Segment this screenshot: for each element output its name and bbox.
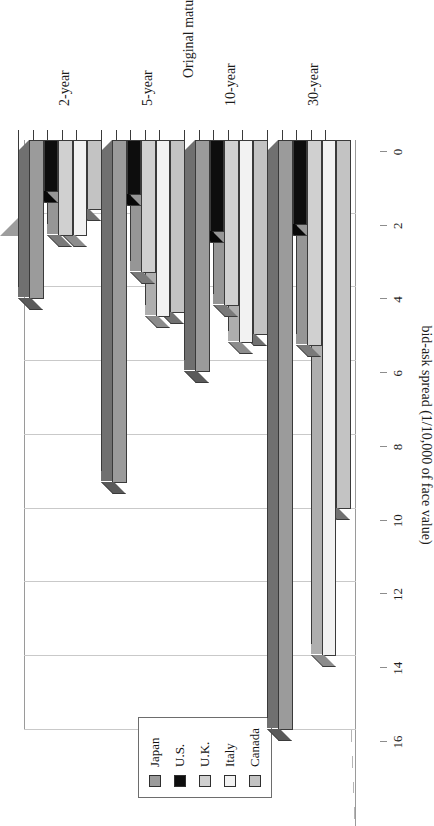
bar-US-30-year [293, 140, 308, 225]
axis-tick [380, 446, 387, 447]
legend-swatch-icon [224, 775, 236, 787]
category-label-30-year: 30-year [306, 63, 322, 106]
value-axis-tick-label: 4 [390, 296, 406, 303]
bar-group-2-year [73, 140, 88, 730]
axis-tick [380, 520, 387, 521]
axis-tick [380, 667, 387, 668]
bar-top-face [184, 140, 195, 370]
legend-item-US[interactable]: U.S. [172, 728, 188, 787]
bar-group-2-year [44, 140, 59, 730]
bar-top-face [18, 140, 29, 297]
bar-group-2-year [58, 140, 73, 730]
value-axis-tick-label: 8 [390, 444, 406, 451]
bar-Japan-2-year [29, 140, 44, 299]
legend-item-Japan[interactable]: Japan [147, 728, 163, 787]
bar-group-5-year [156, 140, 171, 730]
axis-tick [380, 225, 387, 226]
bar-Japan-5-year [112, 140, 127, 483]
bar-Italy-5-year [156, 140, 171, 317]
bar-Japan-30-year [278, 140, 293, 730]
bar-top-face [101, 140, 112, 481]
bar-group-10-year [195, 140, 210, 730]
legend-item-Italy[interactable]: Italy [222, 728, 238, 787]
bar-group-30-year [336, 140, 351, 730]
bar-US-10-year [210, 140, 225, 232]
bar-group-2-year [87, 140, 102, 730]
legend-item-UK[interactable]: U.K. [197, 728, 213, 787]
category-label-10-year: 10-year [223, 63, 239, 106]
bar-group-5-year [112, 140, 127, 730]
bar-Italy-10-year [239, 140, 254, 343]
bar-group-10-year [224, 140, 239, 730]
bar-group-30-year [307, 140, 322, 730]
category-label-2-year: 2-year [57, 70, 73, 106]
legend-label: U.S. [172, 744, 188, 767]
axis-tick [380, 299, 387, 300]
legend-swatch-icon [174, 775, 186, 787]
legend-item-Canada[interactable]: Canada [247, 728, 263, 787]
legend-label: Italy [222, 743, 238, 767]
bar-top-edge [267, 130, 268, 718]
value-axis-title: bid-ask spread (1/10,000 of face value) [418, 325, 434, 544]
bar-group-30-year [293, 140, 308, 730]
legend-swatch-icon [249, 775, 261, 787]
bar-top-face [267, 140, 278, 728]
axis-tick [380, 741, 387, 742]
value-axis-tick-label: 2 [390, 223, 406, 230]
bar-group-30-year [322, 140, 337, 730]
bar-Japan-10-year [195, 140, 210, 372]
value-axis-tick-label: 16 [390, 736, 406, 749]
plot-area [24, 140, 356, 730]
bar-top-edge [184, 130, 185, 360]
value-axis-tick-label: 14 [390, 662, 406, 675]
bar-top-edge [18, 130, 19, 287]
bar-group-10-year [210, 140, 225, 730]
bar-group-30-year [278, 140, 293, 730]
bar-Canada-30-year [336, 140, 351, 509]
bar-top-edge [101, 130, 102, 471]
legend-label: Japan [147, 737, 163, 767]
value-axis-tick-label: 10 [390, 514, 406, 527]
bar-UK-10-year [224, 140, 239, 306]
axis-tick [380, 594, 387, 595]
bar-UK-2-year [58, 140, 73, 236]
value-axis-tick-label: 6 [390, 370, 406, 377]
bar-group-10-year [253, 140, 268, 730]
bar-group-5-year [127, 140, 142, 730]
bar-UK-30-year [307, 140, 322, 347]
bar-group-2-year [29, 140, 44, 730]
bar-US-5-year [127, 140, 142, 195]
legend-swatch-icon [149, 775, 161, 787]
value-axis-tick-label: 0 [390, 149, 406, 156]
category-label-5-year: 5-year [140, 70, 156, 106]
bar-Canada-5-year [170, 140, 185, 313]
bar-group-5-year [141, 140, 156, 730]
bar-Canada-10-year [253, 140, 268, 335]
bar-group-10-year [239, 140, 254, 730]
axis-tick [380, 151, 387, 152]
category-axis-title: Original maturity [181, 0, 197, 78]
bar-Canada-2-year [87, 140, 102, 210]
value-axis-tick-label: 12 [390, 588, 406, 601]
bar-group-5-year [170, 140, 185, 730]
bar-end-cap [18, 298, 43, 310]
bar-Italy-30-year [322, 140, 337, 656]
bar-UK-5-year [141, 140, 156, 273]
legend-swatch-icon [199, 775, 211, 787]
legend-label: Canada [247, 728, 263, 767]
bar-US-2-year [44, 140, 59, 192]
legend-label: U.K. [197, 742, 213, 767]
bar-Italy-2-year [73, 140, 88, 236]
axis-tick [380, 372, 387, 373]
